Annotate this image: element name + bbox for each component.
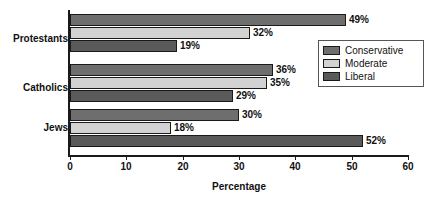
x-tick-label-60: 60 [393,161,423,172]
x-tick-label-50: 50 [337,161,367,172]
x-tick-label-10: 10 [111,161,141,172]
bar-protestants-conservative [70,14,346,26]
bar-protestants-liberal [70,40,177,52]
x-tick-label-20: 20 [168,161,198,172]
bar-chart: Protestants Catholics Jews 49% 32% 19% 3… [0,0,427,207]
x-tick-label-30: 30 [224,161,254,172]
legend-swatch-conservative [323,46,340,55]
bar-value-catholics-liberal: 29% [236,89,256,103]
bar-value-catholics-moderate: 35% [270,76,290,90]
legend-swatch-liberal [323,72,340,81]
legend-item-liberal: Liberal [323,70,419,83]
bar-value-protestants-liberal: 19% [180,39,200,53]
x-tick-30 [239,155,240,160]
legend-label-conservative: Conservative [345,44,403,57]
bar-jews-moderate [70,122,171,134]
x-tick-20 [183,155,184,160]
x-tick-10 [126,155,127,160]
legend: Conservative Moderate Liberal [318,40,424,87]
bar-value-protestants-conservative: 49% [349,13,369,27]
x-axis-title: Percentage [70,181,408,192]
x-tick-0 [70,155,71,160]
x-tick-40 [295,155,296,160]
bar-value-jews-moderate: 18% [174,121,194,135]
bar-value-protestants-moderate: 32% [253,26,273,40]
legend-swatch-moderate [323,59,340,68]
x-tick-50 [352,155,353,160]
category-axis-labels: Protestants Catholics Jews [0,0,68,207]
x-tick-label-40: 40 [280,161,310,172]
category-label-jews: Jews [2,122,68,134]
bar-catholics-moderate [70,77,267,89]
bar-catholics-liberal [70,90,233,102]
bar-value-jews-conservative: 30% [242,108,262,122]
x-tick-60 [408,155,409,160]
category-label-catholics: Catholics [2,82,68,94]
bar-protestants-moderate [70,27,250,39]
x-axis-line [68,155,408,157]
category-label-protestants: Protestants [2,33,68,45]
x-tick-label-0: 0 [55,161,85,172]
bar-jews-liberal [70,135,363,147]
legend-item-conservative: Conservative [323,44,419,57]
legend-label-moderate: Moderate [345,57,387,70]
bar-value-jews-liberal: 52% [366,134,386,148]
legend-label-liberal: Liberal [345,70,375,83]
legend-item-moderate: Moderate [323,57,419,70]
bar-catholics-conservative [70,64,273,76]
bar-value-catholics-conservative: 36% [276,63,296,77]
bar-jews-conservative [70,109,239,121]
